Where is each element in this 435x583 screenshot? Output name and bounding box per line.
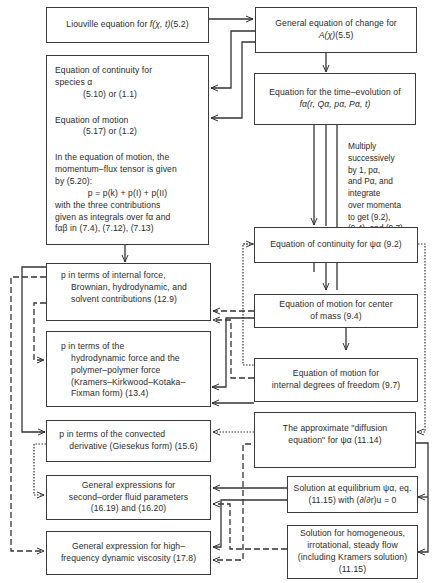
- multiply-note: Multiply successively by 1, pα, and Pα, …: [348, 141, 434, 235]
- general-change-symbol: A(χ): [319, 30, 336, 40]
- node-motion-center-of-mass: Equation of motion for center of mass (9…: [254, 294, 418, 328]
- homogeneous-line2: irrotational, steady flow: [288, 540, 417, 552]
- equilibrium-line1: Solution at equilibrium ψα, eq.: [294, 483, 412, 495]
- p-hydro-line2: hydrodynamic force and the: [61, 353, 202, 365]
- motion-internal-line2: internal degrees of freedom (9.7): [272, 380, 400, 392]
- node-liouville-equation: Liouville equation for f(χ, t)(5.2): [46, 7, 209, 43]
- general-change-line1: General equation of change for: [275, 18, 397, 30]
- momentum-flux-line5: given as integrals over fα and: [55, 212, 200, 224]
- momentum-flux-line4: with the three contributions: [55, 200, 200, 212]
- continuity-species-line2: species α: [55, 77, 200, 89]
- motion-line1: Equation of motion: [55, 115, 200, 127]
- p-internal-line2: Brownian, hydrodynamic, and: [61, 282, 202, 294]
- node-p-internal-force: p in terms of internal force, Brownian, …: [46, 263, 211, 321]
- diffusion-line1: The approximate "diffusion: [283, 423, 387, 435]
- note-line: and Pα, and: [348, 176, 434, 188]
- motion-center-line1: Equation of motion for center: [279, 299, 392, 311]
- node-continuity-psi: Equation of continuity for ψα (9.2): [254, 227, 418, 263]
- p-hydro-line3: polymer–polymer force: [61, 365, 202, 377]
- second-order-line1: General expressions for: [69, 480, 188, 492]
- note-line: Multiply: [348, 141, 434, 153]
- momentum-flux-line2: momentum–flux tensor is given: [55, 164, 200, 176]
- p-convected-line2: derivative (Giesekus form) (15.6): [59, 441, 197, 453]
- note-line: to get (9.2),: [348, 212, 434, 224]
- node-diffusion-equation: The approximate "diffusion equation" for…: [254, 412, 416, 468]
- node-general-equation-of-change: General equation of change for A(χ)(5.5): [255, 7, 417, 53]
- liouville-label: Liouville equation for: [66, 19, 147, 29]
- p-internal-line1: p in terms of internal force,: [61, 270, 202, 282]
- p-convected-line1: p in terms of the convected: [59, 429, 197, 441]
- liouville-symbol: f(χ, t): [150, 19, 171, 29]
- node-time-evolution: Equation for the time–evolution of fα(r,…: [254, 73, 416, 125]
- second-order-line2: second–order fluid parameters: [69, 492, 188, 504]
- node-p-convected-derivative: p in terms of the convected derivative (…: [46, 420, 211, 462]
- momentum-flux-line6: fαβ in (7.4), (7.12), (7.13): [55, 223, 200, 235]
- equilibrium-line2: (11.15) with (∂/∂r)u = 0: [294, 495, 412, 507]
- high-freq-line1: General expression for high–: [61, 541, 196, 553]
- homogeneous-line1: Solution for homogeneous,: [288, 528, 417, 540]
- motion-internal-line1: Equation of motion for: [272, 368, 400, 380]
- p-hydro-line5: Fixman form) (13.4): [61, 388, 202, 400]
- node-second-order-fluid: General expressions for second–order flu…: [46, 475, 211, 520]
- node-p-hydrodynamic-force: p in terms of the hydrodynamic force and…: [46, 331, 211, 407]
- continuity-psi-label: Equation of continuity for ψα (9.2): [270, 239, 402, 251]
- note-line: integrate: [348, 188, 434, 200]
- momentum-flux-line3: by (5.20):: [55, 176, 200, 188]
- note-line: successively: [348, 153, 434, 165]
- node-high-frequency-viscosity: General expression for high– frequency d…: [46, 531, 211, 575]
- note-line: over momenta: [348, 200, 434, 212]
- note-line: by 1, pα,: [348, 165, 434, 177]
- p-hydro-line1: p in terms of the: [61, 341, 202, 353]
- motion-ref: (5.17) or (1.2): [55, 126, 200, 138]
- liouville-ref: (5.2): [171, 19, 189, 29]
- node-motion-internal-freedom: Equation of motion for internal degrees …: [254, 358, 418, 402]
- diffusion-line2: equation" for ψα (11.14): [283, 435, 387, 447]
- momentum-flux-formula: p = p(k) + p(I) + p(II): [55, 188, 200, 200]
- second-order-line3: (16.19) and (16.20): [69, 503, 188, 515]
- continuity-species-line1: Equation of continuity for: [55, 65, 200, 77]
- time-evolution-line2: fα(r, Qα, pα, Pα, t): [269, 99, 400, 111]
- time-evolution-line1: Equation for the time–evolution of: [269, 87, 400, 99]
- node-solution-equilibrium: Solution at equilibrium ψα, eq. (11.15) …: [287, 476, 418, 513]
- momentum-flux-line1: In the equation of motion, the: [55, 152, 200, 164]
- node-solution-homogeneous-flow: Solution for homogeneous, irrotational, …: [287, 525, 418, 579]
- node-conservation-equations: Equation of continuity for species α (5.…: [46, 55, 209, 245]
- motion-center-line2: of mass (9.4): [279, 311, 392, 323]
- p-hydro-line4: (Kramers–Kirkwood–Kotaka–: [61, 377, 202, 389]
- p-internal-line3: solvent contributions (12.9): [61, 294, 202, 306]
- continuity-species-ref: (5.10) or (1.1): [55, 89, 200, 101]
- high-freq-line2: frequency dynamic viscosity (17.8): [61, 553, 196, 565]
- homogeneous-line3: (including Kramers solution)(11.15): [288, 552, 417, 576]
- general-change-ref: (5.5): [335, 30, 353, 40]
